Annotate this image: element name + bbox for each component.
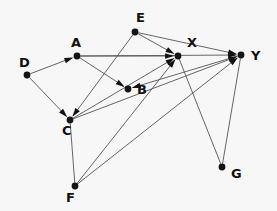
graph-edge-F-Y <box>78 61 233 184</box>
node-layer <box>24 29 245 190</box>
graph-node-label-A: A <box>71 35 81 50</box>
arrowhead-E-X <box>165 47 174 54</box>
graph-node-label-D: D <box>19 55 30 70</box>
edge-layer <box>29 33 240 184</box>
graph-node-A[interactable] <box>74 53 81 60</box>
arrowhead-E-C <box>72 108 80 117</box>
graph-node-label-E: E <box>136 10 145 25</box>
node-label-layer: ABCDEFGXY <box>19 10 261 205</box>
graph-edge-X-G <box>179 59 221 164</box>
graph-edge-C-X <box>73 61 169 118</box>
arrowhead-layer <box>59 47 238 117</box>
graph-node-F[interactable] <box>72 183 79 190</box>
graph-edge-D-C <box>29 77 63 112</box>
arrowhead-D-A <box>64 57 73 63</box>
arrowhead-E-Y <box>228 50 237 55</box>
graph-node-D[interactable] <box>24 72 31 79</box>
graph-edge-E-C <box>76 35 133 112</box>
arrowhead-A-B <box>116 80 125 87</box>
graph-edge-F-X <box>77 64 172 183</box>
graph-node-label-F: F <box>66 190 75 205</box>
graph-edge-Y-G <box>223 58 241 163</box>
graph-node-E[interactable] <box>132 29 139 36</box>
arrowhead-A-X <box>165 53 174 59</box>
graph-edge-E-Y <box>138 33 231 53</box>
graph-node-B[interactable] <box>125 86 132 93</box>
directed-graph-figure: ABCDEFGXY <box>0 0 277 211</box>
graph-node-label-B: B <box>137 82 147 97</box>
graph-edge-A-Y <box>80 55 230 56</box>
graph-node-label-X: X <box>187 35 197 50</box>
graph-node-X[interactable] <box>175 53 182 60</box>
graph-canvas: ABCDEFGXY <box>0 0 277 211</box>
graph-node-Y[interactable] <box>238 52 245 59</box>
graph-node-label-C: C <box>62 123 72 138</box>
graph-edge-D-A <box>30 60 67 74</box>
graph-node-label-Y: Y <box>250 48 261 63</box>
graph-node-label-G: G <box>231 166 242 181</box>
graph-node-G[interactable] <box>219 164 226 171</box>
